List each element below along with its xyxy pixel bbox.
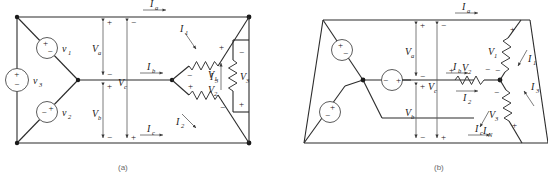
vb-va-plus: + [420, 20, 425, 30]
node-dot [361, 78, 366, 83]
ia-label: I [149, 0, 154, 9]
caption-b: (b) [434, 163, 444, 172]
vb-minus: − [107, 132, 112, 142]
vb-r3-plus: + [512, 120, 517, 130]
i1-label: I [179, 23, 184, 34]
ib-ic-label: I [474, 123, 479, 134]
node-dot [15, 15, 19, 19]
va-plus: + [107, 17, 112, 27]
vb-i3-sub: 3 [535, 87, 540, 94]
line-currents-a: I a I b I c [140, 0, 166, 136]
vb-vc-sub: c [434, 87, 437, 94]
vb-r3-minus: − [494, 87, 499, 97]
vc-sub: c [124, 83, 127, 90]
vc-plus: + [131, 132, 136, 142]
ia-sub: a [155, 4, 158, 11]
resistor-v1-plus: + [219, 42, 224, 52]
source-v1-label: v [62, 43, 67, 54]
resistor-network-b: V 1 + − I 1 V 3 − + I 3 I N [480, 20, 540, 143]
i3-label: I [209, 71, 214, 82]
vb-i3-label: I [530, 81, 535, 92]
vb-in-label: I [482, 125, 487, 136]
va-sub: a [98, 49, 101, 56]
vb-r1-sub: 1 [494, 52, 497, 59]
ib-ia-sub: a [467, 7, 470, 14]
source-v2-symbol [37, 102, 58, 123]
vb-plus: + [107, 81, 112, 91]
resistor-v2-b: + V 2 − I 2 [449, 62, 500, 105]
resistor-network-a: V 1 + − I 1 V 2 + − I 2 V 3 − [170, 15, 252, 146]
vb-i2-sub: 2 [468, 98, 472, 105]
vb-vc-plus: + [441, 132, 446, 142]
i3-sub: 3 [214, 77, 219, 84]
caption-a: (a) [118, 163, 128, 172]
source-network-b: + − + − − + [304, 20, 474, 143]
figure-container: + − v 3 + − v 1 − + v 2 + − V a + − [0, 0, 548, 185]
resistor-v2-minus: − [220, 102, 225, 112]
resistor-v2-plus: + [188, 81, 193, 91]
node-dot [76, 78, 80, 82]
ic-label: I [146, 123, 151, 134]
source-v3-minus: − [14, 79, 19, 89]
source-v2-label: v [62, 107, 67, 118]
source-b-middle-minus: − [383, 75, 388, 85]
source-v1-minus: − [48, 46, 53, 56]
ib-ia-label: I [461, 1, 466, 12]
vb-sub: b [98, 114, 102, 121]
vb-r1-plus: + [510, 24, 515, 34]
vb-r2-sub: 2 [468, 68, 472, 75]
source-v1-sub: 1 [68, 49, 71, 56]
source-v2-minus: − [42, 107, 47, 117]
diagram-a: + − v 3 + − v 1 − + v 2 + − V a + − [6, 0, 252, 172]
circuit-figure: + − v 3 + − v 1 − + v 2 + − V a + − [0, 0, 548, 185]
source-v2-plus: + [49, 103, 54, 113]
vb-vb-sub: b [411, 113, 415, 120]
voltage-measures-b: + − V a + − V b − + V c [405, 20, 446, 142]
vb-in-sub: N [487, 131, 493, 138]
vb-vc-minus: − [441, 20, 446, 30]
resistor-v3-minus: − [239, 47, 244, 57]
source-v3-sub: 3 [38, 81, 43, 88]
source-v3-label: v [33, 75, 38, 86]
vc-minus: − [131, 17, 136, 27]
ic-sub: c [152, 129, 155, 136]
source-v2-sub: 2 [68, 113, 72, 120]
source-b-bottom-minus: − [325, 110, 330, 120]
ib-label: I [146, 61, 151, 72]
vb-r1-minus: − [495, 65, 500, 75]
vb-va-sub: a [411, 52, 414, 59]
i2-sub: 2 [181, 122, 185, 129]
node-dot [15, 141, 19, 145]
diagram-b: + − + − − + + − V a + − V b − + V [304, 1, 548, 172]
resistor-v1-minus: − [187, 70, 192, 80]
i1-sub: 1 [185, 29, 188, 36]
source-b-top-minus: − [343, 48, 348, 58]
vb-r2-minus: − [485, 64, 490, 74]
vb-vb-plus: + [420, 81, 425, 91]
source-b-bottom-plus: + [330, 102, 335, 112]
vb-i1-label: I [527, 53, 532, 64]
vb-vb-minus: − [420, 132, 425, 142]
vb-i2-label: I [462, 92, 467, 103]
i2-label: I [175, 116, 180, 127]
vb-i1-sub: 1 [533, 59, 536, 66]
vb-r2-plus: + [449, 65, 454, 75]
source-b-middle-plus: + [396, 75, 401, 85]
vb-r3-sub: 3 [494, 115, 499, 122]
resistor-v3-plus: + [239, 99, 244, 109]
va-minus: − [107, 69, 112, 79]
vb-va-minus: − [420, 71, 425, 81]
source-v3-plus: + [14, 69, 19, 79]
